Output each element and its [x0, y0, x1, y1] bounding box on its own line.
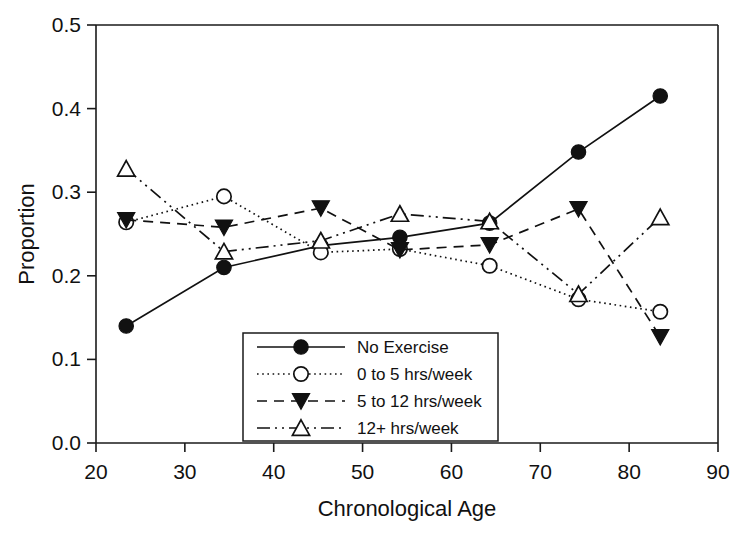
data-point-3-6: [652, 209, 669, 224]
data-point-1-4: [482, 259, 496, 273]
y-tick-label-0.4: 0.4: [52, 97, 82, 120]
data-point-3-2: [312, 233, 329, 248]
marker-open-triangle-up: [652, 209, 669, 224]
x-tick-label-70: 70: [529, 460, 552, 483]
chart-legend: No Exercise0 to 5 hrs/week5 to 12 hrs/we…: [243, 333, 498, 441]
marker-filled-circle: [653, 89, 667, 103]
x-tick-label-50: 50: [351, 460, 374, 483]
x-axis-title: Chronological Age: [318, 496, 497, 521]
data-series-layer: [118, 89, 669, 345]
x-tick-label-30: 30: [173, 460, 196, 483]
marker-open-circle: [653, 305, 667, 319]
data-point-0-6: [653, 89, 667, 103]
x-tick-label-80: 80: [617, 460, 640, 483]
data-point-1-6: [653, 305, 667, 319]
x-tick-label-60: 60: [440, 460, 463, 483]
data-point-0-1: [217, 260, 231, 274]
x-tick-label-40: 40: [262, 460, 285, 483]
y-tick-label-0.2: 0.2: [52, 264, 81, 287]
marker-open-circle: [482, 259, 496, 273]
marker-filled-circle: [217, 260, 231, 274]
marker-open-triangle-up: [118, 161, 135, 176]
data-point-2-6: [652, 330, 669, 345]
marker-open-circle: [217, 189, 231, 203]
y-tick-label-0.3: 0.3: [52, 180, 81, 203]
marker-filled-triangle-down: [215, 220, 232, 235]
data-point-0-0: [119, 319, 133, 333]
chart-figure: 0.00.10.20.30.40.52030405060708090 No Ex…: [0, 0, 741, 539]
data-point-2-4: [481, 238, 498, 253]
series-5-to-12-hrs-week: [118, 201, 669, 345]
marker-open-circle: [294, 367, 308, 381]
marker-filled-triangle-down: [652, 330, 669, 345]
legend-label-2: 5 to 12 hrs/week: [357, 392, 482, 411]
data-point-3-0: [118, 161, 135, 176]
data-point-legend-1: [294, 367, 308, 381]
data-point-2-1: [215, 220, 232, 235]
y-tick-label-0.5: 0.5: [52, 13, 81, 36]
legend-label-0: No Exercise: [357, 338, 449, 357]
data-point-0-5: [571, 145, 585, 159]
y-tick-label-0.1: 0.1: [52, 347, 81, 370]
x-tick-label-90: 90: [706, 460, 729, 483]
y-axis-title: Proportion: [14, 183, 39, 285]
series-12-hrs-week: [118, 161, 669, 302]
marker-filled-circle: [571, 145, 585, 159]
data-point-2-5: [570, 202, 587, 217]
marker-filled-triangle-down: [481, 238, 498, 253]
y-tick-label-0.0: 0.0: [52, 431, 81, 454]
data-point-3-3: [391, 206, 408, 221]
marker-filled-circle: [294, 340, 308, 354]
series-line: [126, 169, 660, 294]
data-point-1-1: [217, 189, 231, 203]
x-tick-label-20: 20: [84, 460, 107, 483]
chart-canvas: 0.00.10.20.30.40.52030405060708090 No Ex…: [0, 0, 741, 539]
legend-label-3: 12+ hrs/week: [357, 419, 459, 438]
marker-open-triangle-up: [312, 233, 329, 248]
legend-label-1: 0 to 5 hrs/week: [357, 365, 473, 384]
data-point-legend-0: [294, 340, 308, 354]
marker-filled-circle: [119, 319, 133, 333]
marker-filled-triangle-down: [570, 202, 587, 217]
marker-open-triangle-up: [391, 206, 408, 221]
series-line: [126, 208, 660, 337]
